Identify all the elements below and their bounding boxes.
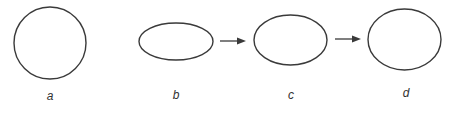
ellipse-c	[254, 15, 327, 65]
label-d: d	[403, 87, 410, 99]
arrow-b-to-c-icon	[220, 38, 246, 45]
arrow-c-to-d-icon	[335, 36, 361, 43]
diagram-canvas	[0, 0, 455, 113]
label-a: a	[47, 90, 54, 102]
circle-a	[14, 7, 86, 79]
ellipse-d	[368, 9, 441, 70]
ellipse-b	[139, 23, 213, 60]
label-b: b	[173, 89, 180, 101]
label-c: c	[288, 89, 294, 101]
